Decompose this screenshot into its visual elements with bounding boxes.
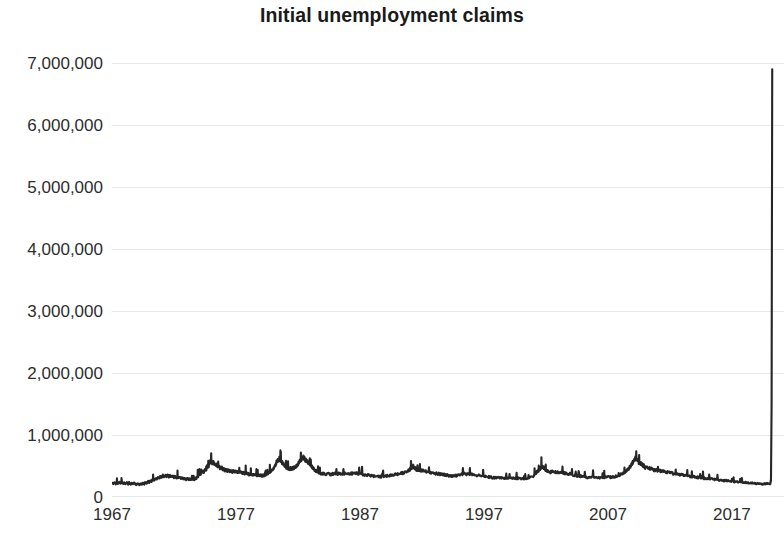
x-axis-labels: 196719771987199720072017 (0, 506, 784, 534)
y-axis-tick-label: 7,000,000 (27, 55, 103, 72)
y-axis-labels: 01,000,0002,000,0003,000,0004,000,0005,0… (0, 0, 103, 534)
x-axis-tick-label: 1967 (93, 506, 131, 523)
x-axis-tick-label: 2007 (589, 506, 627, 523)
plot-area (112, 63, 784, 497)
data-series-line (112, 63, 784, 497)
y-axis-tick-label: 0 (94, 489, 103, 506)
y-axis-tick-label: 4,000,000 (27, 241, 103, 258)
y-axis-tick-label: 1,000,000 (27, 427, 103, 444)
x-axis-tick-label: 2017 (713, 506, 751, 523)
chart-title: Initial unemployment claims (0, 4, 784, 27)
x-axis-tick-label: 1977 (217, 506, 255, 523)
y-axis-tick-label: 3,000,000 (27, 303, 103, 320)
series-line-0 (112, 69, 772, 485)
y-axis-tick-label: 6,000,000 (27, 117, 103, 134)
y-axis-tick-label: 5,000,000 (27, 179, 103, 196)
x-axis-tick-label: 1997 (465, 506, 503, 523)
x-axis-tick-label: 1987 (341, 506, 379, 523)
y-axis-tick-label: 2,000,000 (27, 365, 103, 382)
chart-container: Initial unemployment claims 01,000,0002,… (0, 0, 784, 534)
